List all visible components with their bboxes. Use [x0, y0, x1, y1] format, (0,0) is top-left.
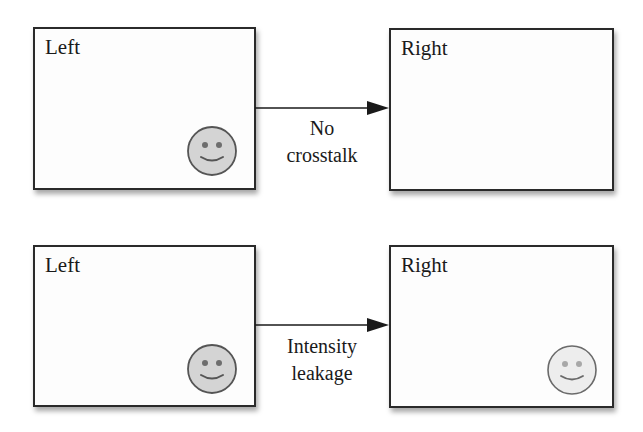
smiley-face-icon: [186, 125, 238, 177]
connector-label-line1: No: [255, 115, 389, 142]
arrow-right-icon: [255, 101, 390, 115]
panel-label-right: Right: [401, 255, 448, 276]
panel-label-left: Left: [45, 37, 80, 58]
top-left-panel: Left: [33, 27, 256, 190]
top-right-panel: Right: [389, 28, 614, 191]
panel-label-left: Left: [45, 255, 80, 276]
arrow-top: [255, 101, 390, 115]
bottom-left-panel: Left: [33, 245, 256, 407]
smiley-face-icon: [186, 343, 238, 395]
connector-label-line2: crosstalk: [255, 142, 389, 169]
arrow-bottom: [255, 318, 390, 332]
panel-label-right: Right: [401, 38, 448, 59]
connector-label-line1: Intensity: [255, 333, 389, 360]
faint-smiley-face-icon: [546, 344, 598, 396]
arrow-right-icon: [255, 318, 390, 332]
bottom-right-panel: Right: [389, 245, 614, 408]
connector-label-line2: leakage: [255, 360, 389, 387]
connector-label-bottom: Intensity leakage: [255, 333, 389, 387]
connector-label-top: No crosstalk: [255, 115, 389, 169]
